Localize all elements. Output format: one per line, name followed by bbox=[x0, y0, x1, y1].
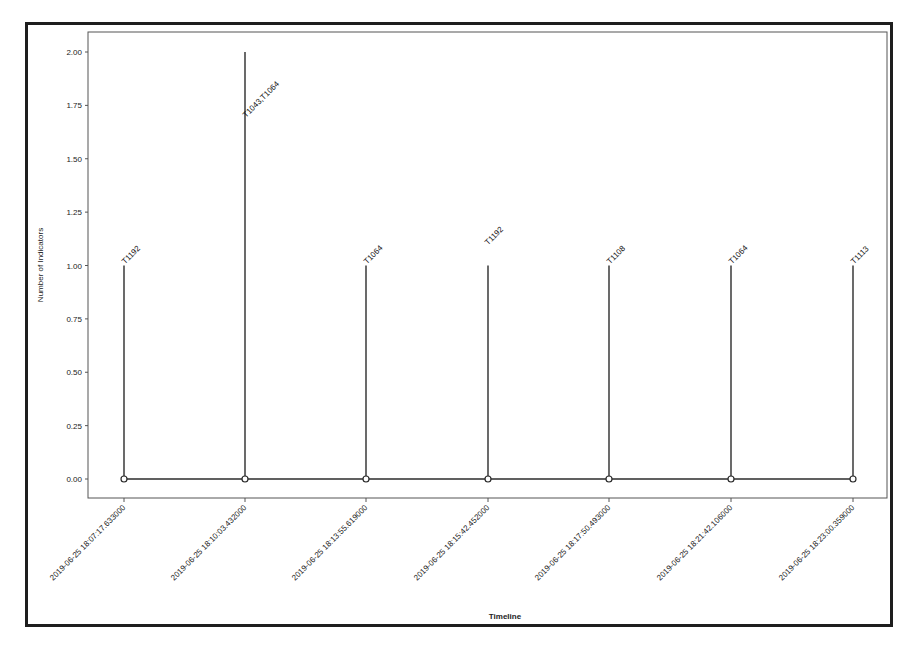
y-axis: 0.000.250.500.751.001.251.501.752.00 bbox=[66, 48, 88, 484]
x-axis-title: Timeline bbox=[489, 612, 522, 621]
y-tick-label: 1.50 bbox=[66, 155, 82, 164]
stem-marker bbox=[121, 476, 127, 482]
y-tick-label: 0.50 bbox=[66, 368, 82, 377]
stem-annotation: T1108 bbox=[605, 244, 627, 266]
stem-annotation: T1192 bbox=[120, 244, 142, 266]
x-tick-label: 2019-06-25 18:07:17.633000 bbox=[48, 503, 128, 583]
stem-marker bbox=[606, 476, 612, 482]
stems: T1192T1043,T1064T1064T1192T1108T1064T111… bbox=[120, 52, 871, 482]
y-tick-label: 1.00 bbox=[66, 262, 82, 271]
x-tick-label: 2019-06-25 18:21:42.106000 bbox=[655, 503, 735, 583]
y-tick-label: 1.25 bbox=[66, 208, 82, 217]
stem-marker bbox=[728, 476, 734, 482]
stem-marker bbox=[242, 476, 248, 482]
y-tick-label: 2.00 bbox=[66, 48, 82, 57]
x-tick-label: 2019-06-25 18:15:42.452000 bbox=[412, 503, 492, 583]
x-tick-label: 2019-06-25 18:10:03.432000 bbox=[169, 503, 249, 583]
stem-annotation: T1064 bbox=[362, 243, 385, 266]
stem-annotation: T1043,T1064 bbox=[241, 79, 281, 119]
x-tick-label: 2019-06-25 18:17:50.493000 bbox=[533, 503, 613, 583]
x-tick-label: 2019-06-25 18:23:00.359000 bbox=[777, 503, 857, 583]
stem-marker bbox=[485, 476, 491, 482]
x-tick-label: 2019-06-25 18:13:55.619000 bbox=[290, 503, 370, 583]
x-axis: 2019-06-25 18:07:17.6330002019-06-25 18:… bbox=[48, 498, 857, 582]
stem-annotation: T1113 bbox=[849, 244, 871, 266]
y-tick-label: 0.75 bbox=[66, 315, 82, 324]
y-axis-title: Number of Indicators bbox=[36, 228, 45, 302]
stem-annotation: T1192 bbox=[483, 225, 505, 247]
y-tick-label: 0.25 bbox=[66, 422, 82, 431]
y-tick-label: 1.75 bbox=[66, 101, 82, 110]
stem-chart: 0.000.250.500.751.001.251.501.752.00 201… bbox=[0, 0, 922, 651]
stem-annotation: T1064 bbox=[727, 243, 750, 266]
y-tick-label: 0.00 bbox=[66, 475, 82, 484]
stem-marker bbox=[363, 476, 369, 482]
stem-marker bbox=[850, 476, 856, 482]
